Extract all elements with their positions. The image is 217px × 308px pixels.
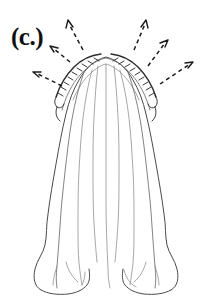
annotation-arrow-crest-left: [66, 20, 83, 50]
annotation-arrow-right-lower: [160, 62, 193, 84]
annotation-arrow-left-lower: [33, 72, 62, 86]
annotation-arrow-right-upper: [148, 40, 168, 66]
annotation-arrow-crest-right: [134, 20, 148, 50]
panel-label: (c.): [11, 24, 43, 49]
annotation-arrow-left-upper: [50, 46, 70, 62]
figure-panel-c: (c.): [0, 0, 217, 308]
specimen-left-ramus-lines: [56, 66, 98, 288]
specimen-foot-creases: [53, 262, 159, 287]
specimen-right-ramus-lines: [106, 64, 156, 288]
